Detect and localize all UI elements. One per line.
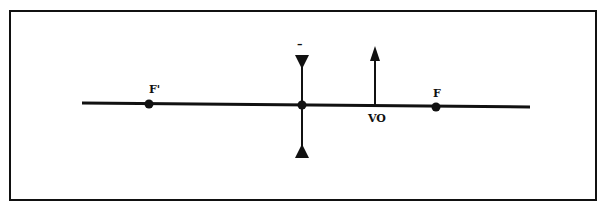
focal-point-right-dot: [432, 103, 441, 112]
lens-bottom-triangle-icon: [295, 144, 309, 158]
optics-diagram: F' – VO F: [0, 0, 607, 207]
focal-point-left-label: F': [149, 83, 160, 96]
object-label: VO: [367, 112, 386, 125]
lens-center-dot: [298, 101, 307, 110]
lens-top-triangle-icon: [295, 55, 309, 69]
focal-point-right-label: F: [433, 87, 441, 100]
focal-point-left-dot: [145, 100, 154, 109]
arrow-up-icon: [370, 46, 380, 61]
diverging-lens: –: [295, 38, 309, 158]
lens-sign-label: –: [297, 38, 303, 51]
object-arrow: [370, 46, 380, 106]
